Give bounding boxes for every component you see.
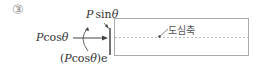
pcos-arrowhead-icon: [102, 36, 108, 41]
psin-var: P: [86, 8, 93, 21]
psin-angle: θ: [112, 8, 119, 21]
moment-func: cos: [72, 52, 90, 65]
moment-suffix: e: [101, 52, 108, 65]
psin-label: Psinθ: [86, 8, 118, 21]
moment-arc: [83, 28, 88, 51]
moment-var: P: [64, 52, 71, 65]
pcos-label: Pcosθ: [36, 31, 68, 44]
pcos-angle: θ: [62, 31, 69, 44]
centroidal-axis-label: 도심축: [168, 22, 195, 37]
axis-leader-dot: [158, 35, 160, 37]
axis-leader-line: [160, 29, 168, 36]
moment-angle: θ: [90, 52, 97, 65]
psin-func: sin: [95, 8, 111, 21]
moment-label: (Pcosθ)e: [60, 52, 108, 65]
pcos-func: cos: [43, 31, 61, 44]
